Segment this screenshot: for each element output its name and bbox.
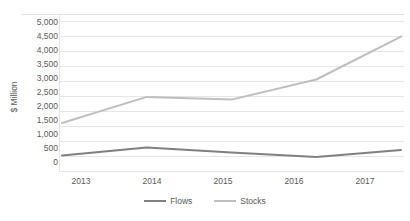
series-lines [62,37,401,157]
x-tick-label: 2013 [51,176,111,186]
x-tick-label: 2015 [193,176,253,186]
gridlines [59,14,404,171]
legend-label: Flows [170,196,192,206]
chart-legend: Flows Stocks [0,196,410,206]
legend-item-stocks[interactable]: Stocks [214,196,266,206]
x-tick-label: 2017 [335,176,395,186]
series-line-stocks [62,37,401,123]
legend-swatch-icon [144,200,166,202]
line-chart: $ Million 5,000 4,500 4,000 3,500 3,000 … [0,0,410,221]
legend-item-flows[interactable]: Flows [144,196,192,206]
x-tick-label: 2014 [122,176,182,186]
legend-label: Stocks [240,196,266,206]
legend-swatch-icon [214,200,236,202]
plot-area [0,0,410,221]
x-tick-label: 2016 [264,176,324,186]
